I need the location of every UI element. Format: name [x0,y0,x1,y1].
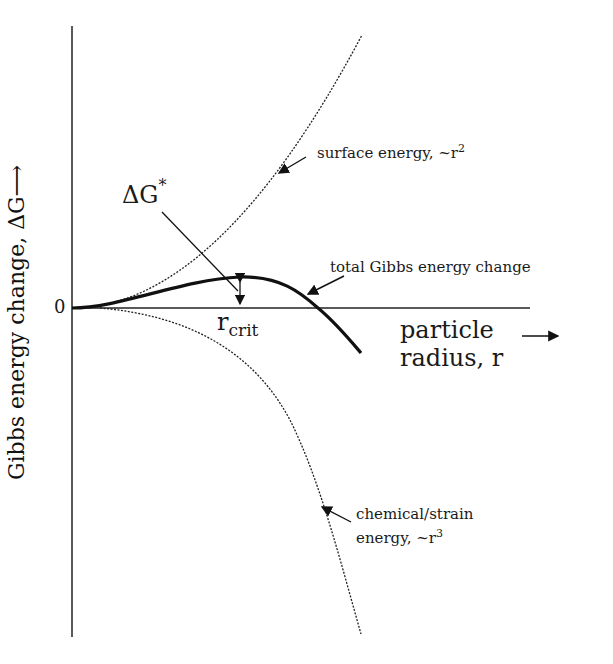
delta-g-star-label: ΔG* [122,176,167,209]
x-axis-label-line1: particle [400,316,503,344]
zero-tick-label: 0 [54,296,65,317]
chem-line2: energy, ~r3 [356,524,473,548]
surface-exp: 2 [458,142,465,155]
delta-g-text: ΔG [122,181,159,209]
r-crit-label: rcrit [217,308,258,340]
surface-label-arrow [279,157,306,173]
crit-text: crit [228,320,258,340]
diagram-canvas [0,0,613,664]
x-axis-label-line2: radius, r [400,344,503,372]
chemical-strain-curve [100,308,361,634]
total-label-arrow [308,276,344,294]
chem-exp: 3 [436,527,443,540]
chem-text: energy, ~r [356,529,436,547]
chem-line1: chemical/strain [356,505,473,524]
star-text: * [159,176,167,195]
total-gibbs-label: total Gibbs energy change [330,258,531,276]
chemical-strain-label: chemical/strain energy, ~r3 [356,505,473,548]
x-axis-label: particle radius, r [400,316,503,372]
r-text: r [217,308,228,336]
surface-energy-label: surface energy, ~r2 [317,142,465,162]
y-axis-label: Gibbs energy change, ΔG⟶ [4,165,29,480]
surface-energy-curve [72,35,362,308]
surface-text: surface energy, ~r [317,144,458,162]
delta-g-star-pointer [162,212,238,291]
chem-label-arrow [322,507,351,522]
